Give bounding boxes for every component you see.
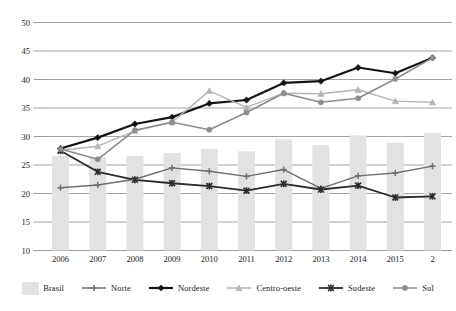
y-tick-label: 30 (22, 132, 31, 142)
bar-brasil-2008 (126, 156, 143, 251)
x-tick-label: 2009 (164, 254, 181, 264)
y-tick-label: 50 (22, 18, 31, 28)
legend-item-sudeste[interactable]: Sudeste (318, 282, 375, 294)
y-tick-label: 45 (22, 46, 31, 56)
chart-container: 101520253035404550 200620072008200920102… (0, 0, 456, 311)
legend-item-centro-oeste[interactable]: Centro-oeste (226, 282, 301, 294)
legend-label: Sudeste (348, 283, 375, 293)
bar-brasil-2011 (238, 151, 255, 250)
legend-swatch-bar-icon (22, 282, 39, 295)
legend-label: Norte (111, 283, 131, 293)
x-axis-ticks: 2006200720082009201020112012201320142015… (52, 254, 435, 264)
line-chart-plot: 101520253035404550 200620072008200920102… (0, 0, 456, 311)
legend-label: Sul (422, 283, 434, 293)
x-tick-label: 2013 (312, 254, 329, 264)
legend-label: Brasil (43, 283, 64, 293)
x-tick-label: 2015 (387, 254, 404, 264)
legend-marker-dot-icon (392, 282, 418, 294)
x-tick-label: 2012 (275, 254, 292, 264)
x-tick-label: 2007 (89, 254, 106, 264)
y-tick-label: 10 (22, 246, 31, 256)
legend-marker-star-icon (318, 282, 344, 294)
y-tick-label: 25 (22, 160, 31, 170)
y-tick-label: 40 (22, 75, 31, 85)
bar-brasil-2016 (424, 133, 441, 250)
y-tick-label: 20 (22, 189, 31, 199)
bar-brasil-2014 (350, 135, 367, 250)
x-tick-label: 2014 (350, 254, 368, 264)
series-markers (57, 55, 435, 201)
x-tick-label: 2010 (201, 254, 218, 264)
y-axis-ticks: 101520253035404550 (22, 18, 42, 256)
legend-item-norte[interactable]: Norte (81, 282, 131, 294)
bar-brasil-2006 (52, 156, 69, 251)
legend-item-nordeste[interactable]: Nordeste (148, 282, 209, 294)
y-tick-label: 35 (22, 103, 31, 113)
legend-item-sul[interactable]: Sul (392, 282, 434, 294)
bar-brasil-2012 (275, 139, 292, 250)
x-tick-label: 2008 (126, 254, 143, 264)
y-tick-label: 15 (22, 217, 31, 227)
legend-label: Centro-oeste (256, 283, 301, 293)
x-tick-label: 2 (430, 254, 434, 264)
chart-legend: BrasilNorteNordesteCentro-oesteSudesteSu… (0, 275, 456, 301)
legend-marker-diamond-icon (148, 282, 174, 294)
x-tick-label: 2011 (238, 254, 255, 264)
legend-marker-triangle-icon (226, 282, 252, 294)
bar-brasil-2010 (201, 149, 218, 250)
legend-label: Nordeste (178, 283, 209, 293)
legend-marker-plus-icon (81, 282, 107, 294)
bar-brasil-2013 (312, 145, 329, 250)
legend-item-brasil[interactable]: Brasil (22, 282, 64, 295)
x-tick-label: 2006 (52, 254, 69, 264)
